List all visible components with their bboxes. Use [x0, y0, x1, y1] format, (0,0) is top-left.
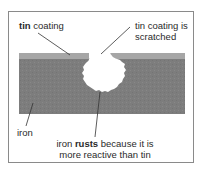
pointer-tin-coating: [38, 33, 70, 55]
pointer-scratched: [101, 27, 130, 54]
label-tin-coating: tin coating: [19, 20, 64, 31]
tin-layer-right: [109, 53, 185, 59]
label-scratched: tin coating is scratched: [135, 20, 188, 42]
tin-layer-left: [19, 53, 89, 59]
label-rusts: iron rusts because it is more reactive t…: [50, 138, 160, 160]
label-iron: iron: [17, 127, 33, 138]
